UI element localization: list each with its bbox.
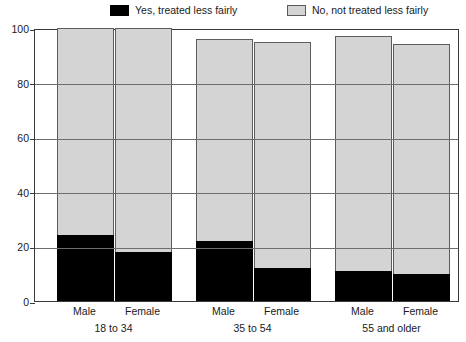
legend-swatch-yes-icon [110,5,129,16]
gridline [35,248,458,249]
y-axis-label: 20 [3,242,29,253]
gridline [35,139,458,140]
group-label-2: 55 and older [334,322,449,334]
x-axis-label-3: Female [253,305,310,317]
legend-item-no: No, not treated less fairly [287,4,428,16]
y-axis-tick [30,139,35,140]
plot-area: 020406080100 [34,29,459,302]
bar-male-2[interactable] [196,39,253,301]
bar-segment-yes[interactable] [393,274,450,301]
x-axis-group-labels: 18 to 3435 to 5455 and older [34,322,459,336]
bar-female-3[interactable] [254,42,311,301]
y-axis-tick [30,193,35,194]
y-axis-label: 0 [3,297,29,308]
legend-item-yes: Yes, treated less fairly [110,4,237,16]
y-axis-tick [30,303,35,304]
bars-container [35,30,458,301]
x-axis-label-2: Male [195,305,252,317]
x-axis-label-0: Male [56,305,113,317]
legend-label-yes: Yes, treated less fairly [135,4,237,16]
x-axis-label-4: Male [334,305,391,317]
chart-legend: Yes, treated less fairly No, not treated… [0,2,466,20]
x-axis-label-5: Female [392,305,449,317]
y-axis-label: 100 [3,24,29,35]
y-axis-label: 80 [3,79,29,90]
y-axis-label: 40 [3,188,29,199]
bar-segment-no[interactable] [254,42,311,301]
chart-root: Yes, treated less fairly No, not treated… [0,0,466,342]
group-label-0: 18 to 34 [56,322,171,334]
group-label-1: 35 to 54 [195,322,310,334]
x-axis-label-1: Female [114,305,171,317]
bar-segment-no[interactable] [335,36,392,301]
gridline [35,84,458,85]
bar-segment-yes[interactable] [254,268,311,301]
legend-swatch-no-icon [287,5,306,16]
y-axis-tick [30,248,35,249]
bar-segment-yes[interactable] [196,241,253,301]
bar-male-4[interactable] [335,36,392,301]
bar-segment-yes[interactable] [57,235,114,301]
x-axis-labels: MaleFemaleMaleFemaleMaleFemale [34,305,459,319]
y-axis-tick [30,30,35,31]
bar-segment-no[interactable] [393,44,450,301]
y-axis-tick [30,84,35,85]
bar-female-1[interactable] [115,28,172,301]
y-axis-label: 60 [3,133,29,144]
bar-segment-yes[interactable] [115,252,172,301]
bar-segment-yes[interactable] [335,271,392,301]
bar-male-0[interactable] [57,28,114,301]
legend-label-no: No, not treated less fairly [312,4,428,16]
gridline [35,193,458,194]
bar-female-5[interactable] [393,44,450,301]
